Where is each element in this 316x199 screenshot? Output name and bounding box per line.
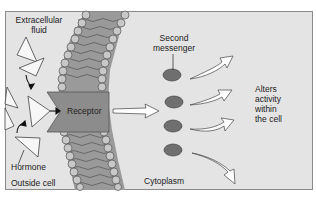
alters-line2: activity — [255, 94, 282, 104]
alters-line4: the cell — [255, 114, 282, 124]
signal-arrow — [113, 104, 159, 118]
outside-cell-label: Outside cell — [11, 178, 55, 188]
receptor-label: Receptor — [67, 106, 102, 116]
hormone-label: Hormone — [11, 162, 46, 172]
second-messenger-line2: messenger — [150, 43, 198, 53]
alters-line3: within — [255, 104, 282, 114]
second-messenger-molecules — [163, 69, 183, 156]
cytoplasm-label: Cytoplasm — [144, 176, 184, 186]
alters-activity-label: Alters activity within the cell — [255, 84, 282, 124]
alters-line1: Alters — [255, 84, 282, 94]
second-messenger-line1: Second — [150, 33, 198, 43]
effect-arrows — [190, 56, 235, 184]
hormone-molecules — [5, 37, 50, 157]
extracellular-line2: fluid — [12, 25, 66, 35]
extracellular-line1: Extracellular — [12, 15, 66, 25]
second-messenger-label: Second messenger — [150, 33, 198, 53]
extracellular-fluid-label: Extracellular fluid — [12, 15, 66, 35]
